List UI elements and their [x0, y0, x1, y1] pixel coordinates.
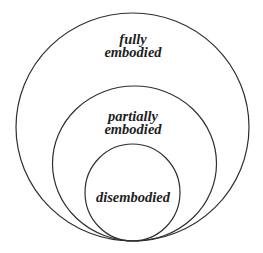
- outer-label-line-2: embodied: [104, 44, 162, 60]
- nested-embodiment-diagram: fully embodied partially embodied disemb…: [0, 0, 263, 253]
- inner-label: disembodied: [96, 189, 171, 205]
- middle-label-line-2: embodied: [104, 121, 162, 137]
